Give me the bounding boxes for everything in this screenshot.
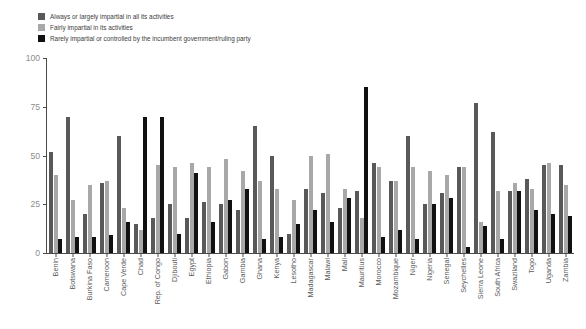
x-tick-label: Zambia	[562, 258, 570, 282]
bar	[49, 152, 53, 253]
bar	[445, 175, 449, 253]
y-tick-label: 75	[30, 102, 40, 112]
bar	[496, 191, 500, 253]
y-tick-label: 25	[30, 199, 40, 209]
bar	[258, 181, 262, 253]
y-tick-label: 50	[30, 151, 40, 161]
x-tick-label: Ghana	[256, 258, 264, 280]
x-tick-label: Malawi	[324, 258, 332, 280]
bar	[313, 210, 317, 253]
bar-group	[489, 58, 506, 253]
bar	[292, 200, 296, 253]
bar	[207, 167, 211, 253]
bar	[517, 191, 521, 253]
bar-group	[319, 58, 336, 253]
x-tick-label: Morocco	[375, 258, 383, 286]
bar	[296, 224, 300, 253]
x-tick-label: Lesotho	[290, 258, 298, 284]
x-label-cell: Uganda	[540, 258, 557, 328]
x-label-cell: Egypt	[183, 258, 200, 328]
x-tick-label: Benin	[52, 258, 60, 276]
bar-group	[370, 58, 387, 253]
x-label-cell: Ghana	[251, 258, 268, 328]
bar	[564, 185, 568, 253]
bar	[559, 165, 563, 253]
legend-item-rarely-impartial: Rarely impartial or controlled by the in…	[38, 33, 251, 43]
x-tick-label: Senegal	[443, 258, 451, 284]
bar	[508, 191, 512, 253]
bar-group	[540, 58, 557, 253]
bar	[406, 136, 410, 253]
bar	[92, 237, 96, 253]
y-axis-tick-labels: 0255075100	[14, 58, 40, 253]
x-label-cell: Madagascar	[302, 258, 319, 328]
x-label-cell: Cameroon	[98, 258, 115, 328]
bar	[143, 117, 147, 254]
x-tick-label: Nigeria	[426, 258, 434, 281]
bar	[530, 189, 534, 253]
x-tick-label: Mali	[341, 258, 349, 271]
x-tick-mark	[310, 254, 311, 257]
x-tick-label: Niger	[409, 258, 417, 275]
bar	[330, 222, 334, 253]
x-label-cell: Togo	[523, 258, 540, 328]
bar	[326, 154, 330, 253]
x-tick-mark	[89, 254, 90, 257]
bar	[432, 204, 436, 253]
bar	[389, 181, 393, 253]
x-tick-label: Cape Verde	[120, 258, 128, 296]
x-label-cell: Nigeria	[421, 258, 438, 328]
bar-group	[268, 58, 285, 253]
bar	[224, 159, 228, 253]
x-tick-mark	[191, 254, 192, 257]
bar	[241, 171, 245, 253]
x-label-cell: Botswana	[64, 258, 81, 328]
bar	[440, 193, 444, 253]
legend-label-fairly-impartial: Fairly impartial in its activities	[50, 23, 133, 32]
bar	[364, 87, 368, 253]
x-label-cell: Benin	[47, 258, 64, 328]
bar	[287, 234, 291, 254]
x-tick-mark	[514, 254, 515, 257]
x-label-cell: Mauritius	[353, 258, 370, 328]
bar	[394, 181, 398, 253]
x-tick-label: Kenya	[273, 258, 281, 278]
x-label-cell: Sierra Leone	[472, 258, 489, 328]
bar-group	[285, 58, 302, 253]
x-tick-label: Chad	[137, 258, 145, 275]
bar	[109, 235, 113, 253]
x-tick-mark	[123, 254, 124, 257]
x-tick-label: Botswana	[69, 258, 77, 290]
bar	[568, 216, 572, 253]
bar-group	[438, 58, 455, 253]
x-label-cell: Gambia	[234, 258, 251, 328]
bar-group	[455, 58, 472, 253]
x-label-cell: Chad	[132, 258, 149, 328]
bar-group	[251, 58, 268, 253]
x-tick-mark	[72, 254, 73, 257]
x-tick-mark	[157, 254, 158, 257]
bar-group	[47, 58, 64, 253]
bar-group	[302, 58, 319, 253]
bar	[381, 237, 385, 253]
x-label-cell: Gabon	[217, 258, 234, 328]
x-label-cell: Zambia	[557, 258, 574, 328]
bar	[304, 189, 308, 253]
bar-group	[81, 58, 98, 253]
bar-group	[472, 58, 489, 253]
x-label-cell: Mozambique	[387, 258, 404, 328]
chart-legend: Always or largely impartial in all its a…	[38, 11, 251, 43]
bar	[100, 183, 104, 253]
x-tick-label: Djibouti	[171, 258, 179, 282]
bar-group	[115, 58, 132, 253]
x-tick-mark	[548, 254, 549, 257]
y-tick-label: 100	[26, 53, 40, 63]
bar	[513, 183, 517, 253]
x-tick-mark	[497, 254, 498, 257]
bar	[270, 156, 274, 254]
bar	[134, 224, 138, 253]
x-tick-mark	[276, 254, 277, 257]
bar	[177, 234, 181, 254]
x-tick-mark	[446, 254, 447, 257]
x-axis-labels: BeninBotswanaBurkina FasoCameroonCape Ve…	[47, 258, 574, 328]
